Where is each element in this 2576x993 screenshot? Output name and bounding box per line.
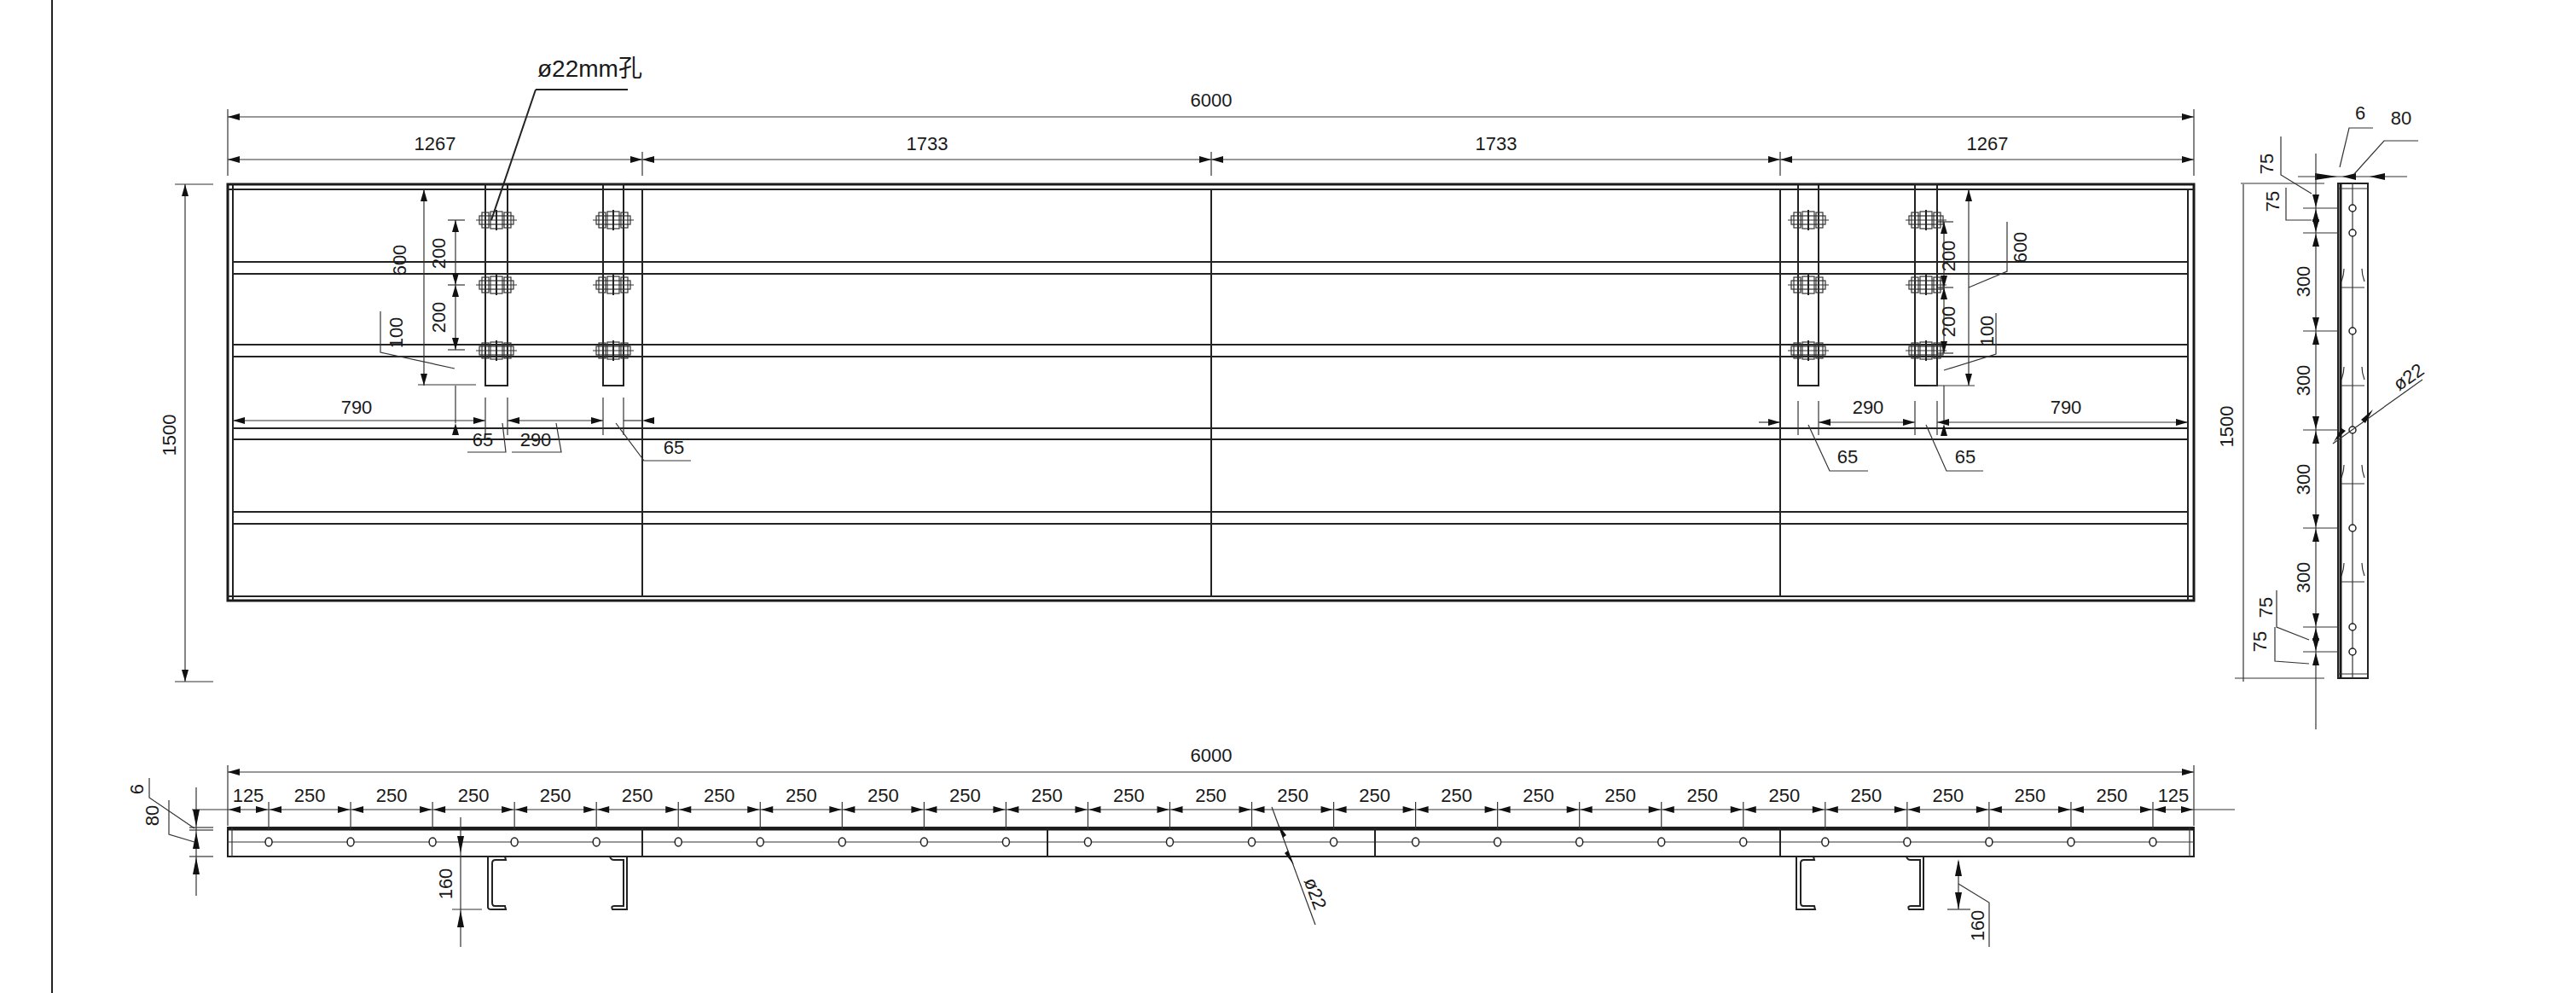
side-dim-75: 75 (2262, 191, 2283, 212)
elevation-dim-hole-spacing: 250 (622, 785, 653, 806)
bolt-icon (1906, 210, 1947, 230)
hole-icon (1084, 838, 1091, 846)
elevation-dim-hole-spacing: 250 (867, 785, 899, 806)
bolt-icon (1788, 210, 1829, 230)
hole-icon (1249, 838, 1256, 846)
elevation-dim-hole-spacing: 250 (1686, 785, 1718, 806)
bolt-icon (593, 275, 634, 295)
side-dim-75: 75 (2256, 154, 2277, 174)
hole-icon (1740, 838, 1747, 846)
hole-icon (347, 838, 354, 846)
channel-section (1906, 857, 1923, 909)
dim-segment-4: 1267 (1967, 133, 2009, 154)
side-dim-depth: 80 (2391, 107, 2411, 129)
engineering-drawing: ø22mm孔 6000 1267 1733 1733 1267 1500 600 (0, 0, 2576, 993)
dim-strip-span-left: 600 (389, 245, 410, 276)
dim-strip-offset-right: 100 (1976, 316, 1998, 347)
elevation-dim-hole-spacing: 250 (1359, 785, 1390, 806)
side-dim-thickness: 6 (2355, 102, 2365, 124)
dim-strip-gap-left: 290 (520, 429, 552, 450)
channel-section (610, 857, 627, 909)
elevation-dim-hole-spacing: 250 (458, 785, 490, 806)
elevation-dim-hole-spacing: 250 (1768, 785, 1800, 806)
dim-strip-width-right-2: 65 (1955, 446, 1976, 467)
dim-overall-width: 6000 (1191, 90, 1233, 111)
elevation-dim-hole-spacing: 125 (2158, 785, 2190, 806)
dim-strip-offset-left: 100 (386, 317, 407, 349)
bolt-icon (476, 340, 517, 361)
side-dim-300: 300 (2293, 365, 2314, 397)
dim-strip-gap-right: 290 (1853, 397, 1884, 418)
dim-strip-width-left: 65 (473, 429, 493, 450)
bolt-icon (1906, 275, 1947, 295)
bolt-icon (1788, 340, 1829, 361)
side-dim-75: 75 (2255, 597, 2277, 618)
bolt-icon (593, 340, 634, 361)
elevation-dim-hole-spacing: 250 (376, 785, 408, 806)
bolt-icon (476, 275, 517, 295)
elevation-dim-hole-spacing: 250 (1604, 785, 1636, 806)
side-dim-75: 75 (2249, 631, 2271, 652)
hole-icon (675, 838, 682, 846)
side-dim-300: 300 (2293, 562, 2314, 594)
hole-icon (429, 838, 436, 846)
elevation-dim-hole-spacing: 250 (1441, 785, 1472, 806)
bolt-icon (593, 210, 634, 230)
elevation-dim-hole-spacing: 250 (2097, 785, 2128, 806)
dim-strip-span-right: 600 (2010, 232, 2031, 264)
dim-left-offset: 790 (341, 397, 373, 418)
hole-icon (1904, 838, 1911, 846)
dim-strip-width-right: 65 (1837, 446, 1858, 467)
hole-icon (1413, 838, 1419, 846)
callout-leader (491, 90, 536, 220)
plan-view: ø22mm孔 6000 1267 1733 1733 1267 1500 600 (159, 55, 2243, 682)
dim-bolt-pitch-right-bottom: 200 (1938, 306, 1959, 338)
elevation-dim-thickness: 6 (126, 784, 148, 794)
dim-strip-width-left-2: 65 (664, 437, 684, 458)
elevation-dim-hole-spacing: 125 (233, 785, 264, 806)
elevation-dim-hole-spacing: 250 (704, 785, 735, 806)
side-dim-300: 300 (2293, 266, 2314, 298)
hole-icon (2150, 838, 2156, 846)
hole-icon (838, 838, 845, 846)
elevation-dim-hole-spacing: 250 (1933, 785, 1964, 806)
hole-icon (1822, 838, 1829, 846)
hole-icon (757, 838, 763, 846)
dim-overall-height-right: 1500 (2216, 406, 2237, 448)
hole-icon (1658, 838, 1665, 846)
hole-icon (511, 838, 518, 846)
side-view: 6 80 75 75 300 300 300 300 75 75 ø22 (2235, 102, 2428, 729)
elevation-dim-hole-spacing: 250 (294, 785, 326, 806)
elevation-dim-depth: 80 (142, 805, 163, 826)
hole-icon (920, 838, 927, 846)
elevation-dim-hole-spacing: 250 (540, 785, 571, 806)
hole-icon (1331, 838, 1337, 846)
elevation-view: 6000 12525025025025025025025025025025025… (126, 745, 2235, 947)
bolt-icon (1788, 275, 1829, 295)
hole-icon (1576, 838, 1583, 846)
elevation-dim-overall: 6000 (1191, 745, 1233, 766)
elevation-dim-channel-right: 160 (1967, 910, 1988, 942)
dim-segment-1: 1267 (415, 133, 456, 154)
elevation-hole-dia: ø22 (1300, 874, 1331, 912)
elevation-dim-hole-spacing: 250 (786, 785, 817, 806)
hole-icon (1166, 838, 1173, 846)
elevation-dim-hole-spacing: 250 (1523, 785, 1554, 806)
elevation-dim-hole-spacing: 250 (2015, 785, 2046, 806)
dim-bolt-pitch-left-top: 200 (428, 238, 450, 270)
elevation-dim-hole-spacing: 250 (1277, 785, 1308, 806)
side-hole-dia: ø22 (2389, 359, 2428, 395)
hole-icon (1986, 838, 1993, 846)
dim-segment-3: 1733 (1476, 133, 1517, 154)
elevation-dim-hole-spacing: 250 (949, 785, 981, 806)
elevation-dim-hole-spacing: 250 (1850, 785, 1882, 806)
hole-icon (1002, 838, 1009, 846)
hole-icon (265, 838, 272, 846)
dim-bolt-pitch-left-bottom: 200 (428, 302, 450, 334)
elevation-dim-hole-spacing: 250 (1031, 785, 1063, 806)
elevation-dim-channel-left: 160 (435, 868, 456, 900)
dim-bolt-pitch-right-top: 200 (1938, 241, 1959, 272)
elevation-dim-hole-spacing: 250 (1113, 785, 1145, 806)
bolt-icon (476, 210, 517, 230)
side-dim-300: 300 (2293, 464, 2314, 496)
